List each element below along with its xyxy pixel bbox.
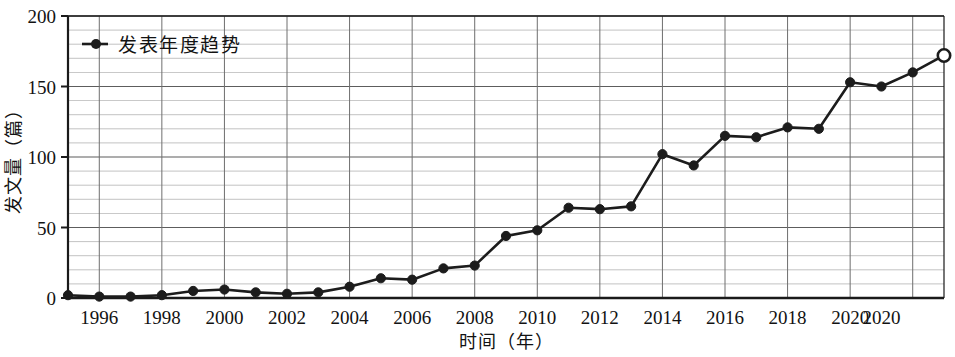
legend-marker-swatch <box>91 39 101 49</box>
data-point <box>501 231 510 240</box>
x-axis-tick-label: 2008 <box>456 307 494 328</box>
data-point <box>376 274 385 283</box>
x-axis-tick-label: 2012 <box>581 307 619 328</box>
data-point <box>720 131 729 140</box>
x-axis-tick-label: 2016 <box>706 307 744 328</box>
data-point <box>439 264 448 273</box>
x-axis-tick-label: 2014 <box>643 307 682 328</box>
data-point <box>689 161 698 170</box>
x-axis-tick-label: 1996 <box>80 307 118 328</box>
x-axis-tick-label: 2004 <box>331 307 370 328</box>
data-point <box>251 288 260 297</box>
x-axis-tick-label: 2018 <box>769 307 807 328</box>
x-axis-tick-label: 2002 <box>268 307 306 328</box>
data-point <box>282 289 291 298</box>
x-axis-tick-label: 2006 <box>393 307 431 328</box>
data-point <box>533 226 542 235</box>
x-axis-tick-label: 2000 <box>205 307 243 328</box>
legend-label: 发表年度趋势 <box>118 34 241 56</box>
x-axis-tick-label: 2020 <box>862 307 900 328</box>
data-point <box>95 292 104 301</box>
data-point <box>314 288 323 297</box>
data-point <box>126 292 135 301</box>
data-point <box>157 291 166 300</box>
data-point-open <box>938 49 950 61</box>
y-axis-tick-label: 150 <box>28 77 57 98</box>
chart-canvas: 050100150200 199619982000200220042006200… <box>0 0 955 357</box>
data-point <box>627 202 636 211</box>
x-axis-tick-label: 1998 <box>143 307 181 328</box>
data-point <box>408 275 417 284</box>
data-point <box>908 68 917 77</box>
x-axis-title: 时间（年） <box>459 331 554 352</box>
x-axis-tick-label: 2010 <box>518 307 556 328</box>
data-point <box>220 285 229 294</box>
data-point <box>877 82 886 91</box>
data-point <box>595 205 604 214</box>
data-point <box>63 291 72 300</box>
data-point <box>658 150 667 159</box>
data-point <box>470 261 479 270</box>
y-axis-tick-label: 200 <box>28 6 57 27</box>
data-point <box>783 123 792 132</box>
y-axis-tick-label: 50 <box>37 218 56 239</box>
y-axis-tick-label: 0 <box>47 288 57 309</box>
y-axis-title: 发文量（篇） <box>3 100 24 214</box>
y-axis-tick-label: 100 <box>28 147 57 168</box>
data-point <box>345 282 354 291</box>
data-point <box>846 78 855 87</box>
publication-trend-chart: 050100150200 199619982000200220042006200… <box>0 0 955 357</box>
data-point <box>752 133 761 142</box>
data-point <box>189 286 198 295</box>
data-point <box>564 203 573 212</box>
data-point <box>814 124 823 133</box>
